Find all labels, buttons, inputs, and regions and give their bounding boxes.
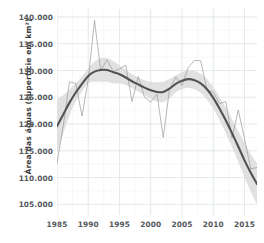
area-das-aguas-chart: Área das águas (superfície em km²) 140.0… (0, 0, 264, 243)
raw-data-line (57, 20, 257, 169)
chart-canvas (57, 9, 257, 215)
confidence-band (57, 58, 257, 205)
y-axis-tick-label: 130.000 (7, 67, 53, 76)
x-axis-tick-label: 2015 (228, 220, 262, 229)
y-axis-tick-label: 115.000 (7, 147, 53, 156)
x-axis-tick-label: 2010 (196, 220, 230, 229)
y-axis-tick-label: 135.000 (7, 40, 53, 49)
y-axis-tick-label: 120.000 (7, 120, 53, 129)
x-axis-tick-label: 1990 (71, 220, 105, 229)
x-axis-tick-label: 1985 (40, 220, 74, 229)
y-axis-tick-label: 110.000 (7, 174, 53, 183)
y-axis-tick-label: 125.000 (7, 93, 53, 102)
x-axis-tick-label: 2000 (134, 220, 168, 229)
y-axis-tick-label: 140.000 (7, 13, 53, 22)
plot-area (57, 9, 257, 215)
y-axis-tick-label: 105.000 (7, 200, 53, 209)
x-axis-tick-label: 1995 (103, 220, 137, 229)
x-axis-tick-label: 2005 (165, 220, 199, 229)
x-axis-tick-labels: 1985199019952000200520102015 (0, 220, 264, 236)
y-axis-tick-labels: 140.000135.000130.000125.000120.000115.0… (7, 0, 53, 243)
